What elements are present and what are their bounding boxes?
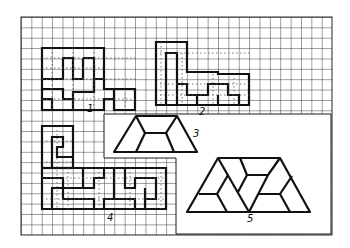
label-4: 4	[107, 212, 113, 223]
label-1: 1	[87, 103, 93, 114]
label-2: 2	[199, 106, 205, 117]
tiling-figure: 1 2 3 4 5	[0, 0, 350, 248]
label-5: 5	[247, 213, 253, 224]
label-3: 3	[193, 128, 199, 139]
